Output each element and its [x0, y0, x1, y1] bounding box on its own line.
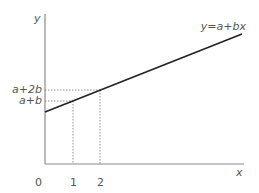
y-tick-a-plus-2b: a+2b [12, 83, 42, 96]
equation-label: y=a+bx [200, 20, 247, 33]
x-tick-1: 1 [70, 176, 77, 189]
origin-label: 0 [35, 176, 42, 189]
linear-graph: y x 0 1 2 a+b a+2b y=a+bx [0, 0, 259, 193]
y-axis-label: y [33, 12, 41, 25]
x-axis-label: x [235, 166, 243, 179]
function-line [45, 34, 242, 112]
x-tick-2: 2 [97, 176, 104, 189]
